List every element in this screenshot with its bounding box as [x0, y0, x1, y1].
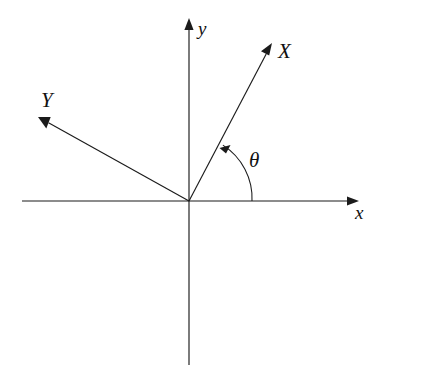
theta-label: θ — [249, 148, 259, 172]
figure-container: x y X Y θ — [0, 0, 448, 388]
X-axis-ray — [189, 54, 266, 201]
Y-axis-label: Y — [41, 88, 55, 112]
x-axis-label: x — [354, 202, 364, 223]
X-axis-label: X — [277, 39, 292, 63]
coordinate-axes-diagram: x y X Y θ — [0, 0, 448, 388]
y-axis-label: y — [196, 18, 207, 39]
Y-axis-ray — [49, 123, 190, 201]
y-axis-arrowhead — [184, 18, 193, 30]
X-axis-arrowhead — [261, 43, 272, 56]
theta-arc — [223, 145, 252, 201]
